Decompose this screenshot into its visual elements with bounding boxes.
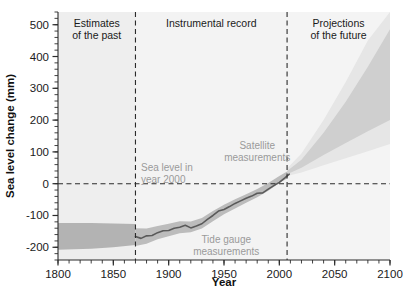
x-axis-title: Year — [212, 276, 237, 288]
x-tick-label: 1800 — [45, 268, 71, 280]
annotation-tide-gauge-line2: measurements — [193, 246, 259, 257]
y-tick-label: -200 — [26, 241, 49, 253]
era-label-instrumental: Instrumental record — [166, 17, 257, 29]
era-label-future-line2: of the future — [311, 29, 367, 41]
y-axis-title: Sea level change (mm) — [4, 74, 16, 198]
annotation-sea-level-2000-line2: year 2000 — [141, 174, 186, 185]
era-label-past: Estimates — [74, 17, 120, 29]
annotation-satellite: Satellite — [239, 140, 275, 151]
y-tick-label: 300 — [30, 82, 49, 94]
era-background-instrumental — [135, 12, 287, 260]
era-label-past-line2: of the past — [72, 29, 121, 41]
y-axis-ticks: -200-1000100200300400500 — [26, 12, 58, 260]
sea-level-change-figure: 1800185019001950200020502100 -200-100010… — [0, 0, 403, 292]
x-tick-label: 1850 — [101, 268, 127, 280]
era-label-future: Projections — [313, 17, 365, 29]
x-tick-label: 2100 — [377, 268, 403, 280]
era-background-past — [58, 12, 135, 260]
y-tick-label: -100 — [26, 209, 49, 221]
y-tick-label: 0 — [43, 178, 49, 190]
y-tick-label: 200 — [30, 114, 49, 126]
x-tick-label: 1900 — [156, 268, 182, 280]
x-tick-label: 2050 — [322, 268, 348, 280]
annotation-tide-gauge: Tide gauge — [201, 234, 251, 245]
y-tick-label: 100 — [30, 146, 49, 158]
x-tick-label: 2000 — [267, 268, 293, 280]
y-tick-label: 400 — [30, 51, 49, 63]
sea-level-chart: 1800185019001950200020502100 -200-100010… — [0, 0, 403, 292]
y-tick-label: 500 — [30, 19, 49, 31]
annotation-satellite-line2: measurements — [224, 152, 290, 163]
annotation-sea-level-2000: Sea level in — [141, 162, 193, 173]
series-band — [58, 223, 135, 250]
